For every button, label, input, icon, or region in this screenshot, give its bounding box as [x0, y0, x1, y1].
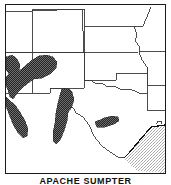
map-canvas [6, 5, 165, 173]
distribution-map-figure: APACHE SUMPTER [0, 0, 171, 185]
figure-caption: APACHE SUMPTER [0, 176, 171, 185]
map-frame [5, 4, 166, 174]
